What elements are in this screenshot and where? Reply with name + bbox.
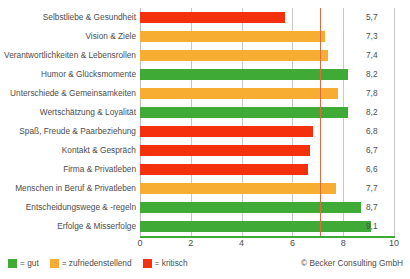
legend-label: = gut <box>20 258 39 268</box>
legend-item-zufriedenstellend: = zufriedenstellend <box>50 258 132 268</box>
category-label: Erfolge & Misserfolge <box>0 217 136 236</box>
plot-area <box>140 8 394 236</box>
category-label: Spaß, Freude & Paarbeziehung <box>0 122 136 141</box>
legend-label: = zufriedenstellend <box>62 258 132 268</box>
category-axis-labels: Selbstliebe & GesundheitVision & ZieleVe… <box>0 8 136 236</box>
value-label: 8,2 <box>366 65 390 84</box>
legend-swatch-zufriedenstellend <box>50 259 59 268</box>
value-label: 8,2 <box>366 103 390 122</box>
value-label: 6,6 <box>366 160 390 179</box>
x-tick-label: 10 <box>389 238 399 248</box>
category-label: Unterschiede & Gemeinsamkeiten <box>0 84 136 103</box>
category-label: Entscheidungswege & -regeln <box>0 198 136 217</box>
x-tick-label: 0 <box>137 238 142 248</box>
value-label: 6,7 <box>366 141 390 160</box>
legend: = gut= zufriedenstellend= kritisch <box>8 258 188 268</box>
category-label: Verantwortlichkeiten & Lebensrollen <box>0 46 136 65</box>
copyright-text: © Becker Consulting GmbH <box>301 258 403 268</box>
value-label: 7,8 <box>366 84 390 103</box>
value-label: 7,3 <box>366 27 390 46</box>
value-label: 9,1 <box>366 217 390 236</box>
category-label: Humor & Glücksmomente <box>0 65 136 84</box>
category-label: Selbstliebe & Gesundheit <box>0 8 136 27</box>
legend-swatch-kritisch <box>143 259 152 268</box>
legend-swatch-gut <box>8 259 17 268</box>
x-axis-ticks: 0246810 <box>140 238 395 252</box>
value-label: 8,7 <box>366 198 390 217</box>
legend-label: = kritisch <box>155 258 188 268</box>
x-tick-label: 4 <box>239 238 244 248</box>
reference-line <box>320 8 321 236</box>
category-label: Firma & Privatleben <box>0 160 136 179</box>
category-label: Wertschätzung & Loyalität <box>0 103 136 122</box>
gridline-10 <box>394 8 395 236</box>
value-label: 5,7 <box>366 8 390 27</box>
category-label: Vision & Ziele <box>0 27 136 46</box>
bar-chart: Selbstliebe & GesundheitVision & ZieleVe… <box>0 0 410 279</box>
legend-item-gut: = gut <box>8 258 39 268</box>
x-tick-label: 8 <box>341 238 346 248</box>
category-label: Kontakt & Gespräch <box>0 141 136 160</box>
category-label: Menschen in Beruf & Privatleben <box>0 179 136 198</box>
legend-item-kritisch: = kritisch <box>143 258 188 268</box>
value-labels: 5,77,37,48,27,88,26,86,76,67,78,79,1 <box>366 8 390 236</box>
x-tick-label: 6 <box>290 238 295 248</box>
x-tick-label: 2 <box>188 238 193 248</box>
value-label: 6,8 <box>366 122 390 141</box>
value-label: 7,7 <box>366 179 390 198</box>
value-label: 7,4 <box>366 46 390 65</box>
reference-line-layer <box>140 8 394 236</box>
